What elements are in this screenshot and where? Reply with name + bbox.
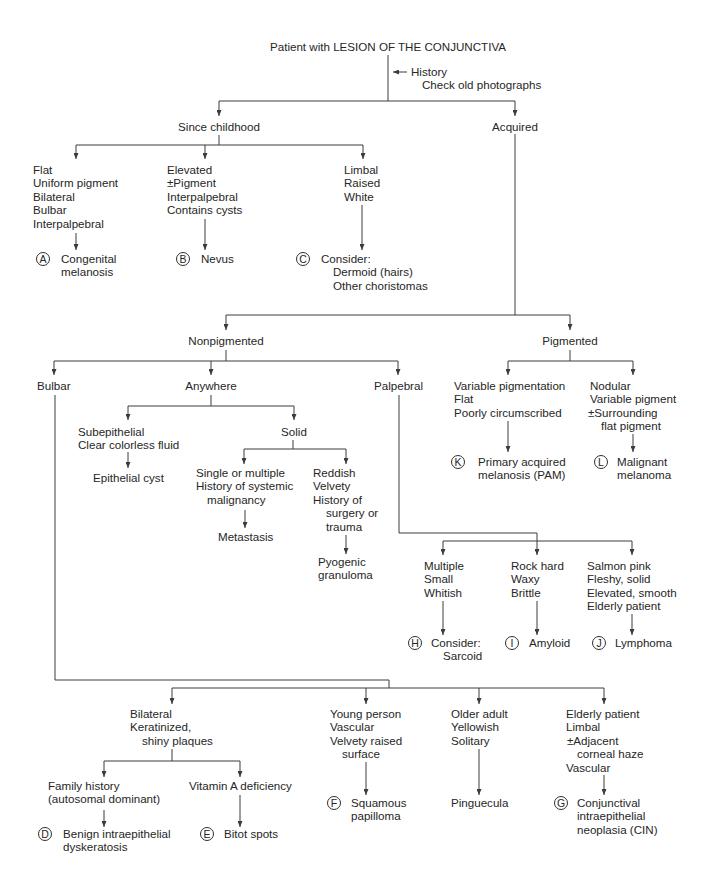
diagnosis-line: dyskeratosis bbox=[63, 840, 171, 853]
criteria-line: shiny plaques bbox=[130, 734, 213, 747]
branch-solid: Solid bbox=[281, 425, 307, 438]
criteria-line: Waxy bbox=[511, 572, 564, 585]
criteria-line: Rock hard bbox=[511, 559, 564, 572]
diagnosis-line: Pyogenic bbox=[318, 555, 373, 568]
diagnosis-marker: I bbox=[505, 636, 519, 650]
criteria-line: Yellowish bbox=[451, 720, 508, 733]
criteria-block: Young person Vascular Velvety raised sur… bbox=[330, 707, 402, 761]
diagnosis-line: Sarcoid bbox=[431, 649, 482, 662]
criteria-line: Contains cysts bbox=[167, 203, 242, 216]
criteria-line: Elevated bbox=[167, 163, 242, 176]
criteria-block: Multiple Small Whitish bbox=[424, 559, 464, 599]
criteria-block: Rock hard Waxy Brittle bbox=[511, 559, 564, 599]
diagnosis-block: Squamous papilloma bbox=[351, 796, 406, 823]
criteria-block: Elderly patient Limbal ±Adjacent corneal… bbox=[566, 707, 643, 774]
criteria-line: Small bbox=[424, 572, 464, 585]
criteria-line: trauma bbox=[313, 520, 378, 533]
criteria-line: Interpalpebral bbox=[167, 190, 242, 203]
diagnosis-block: Congenital melanosis bbox=[61, 252, 116, 279]
diagnosis-marker: D bbox=[38, 827, 52, 841]
criteria-block: Family history (autosomal dominant) bbox=[48, 779, 160, 806]
diagnosis-marker: J bbox=[592, 636, 606, 650]
criteria-line: Young person bbox=[330, 707, 402, 720]
criteria-block: Elevated ±Pigment Interpalpebral Contain… bbox=[167, 163, 242, 217]
diagnosis-marker: H bbox=[408, 636, 422, 650]
criteria-line: Keratinized, bbox=[130, 720, 213, 733]
criteria-block: Subepithelial Clear colorless fluid bbox=[78, 425, 179, 452]
criteria-line: Variable pigment bbox=[590, 392, 676, 405]
criteria-line: Limbal bbox=[344, 163, 380, 176]
criteria-line: Solitary bbox=[451, 734, 508, 747]
criteria-line: Elderly patient bbox=[587, 599, 677, 612]
diagnosis-line: Conjunctival bbox=[577, 796, 658, 809]
branch-acquired: Acquired bbox=[492, 120, 538, 133]
criteria-line: Interpalpebral bbox=[33, 217, 118, 230]
criteria-block: Bilateral Keratinized, shiny plaques bbox=[130, 707, 213, 747]
branch-bulbar: Bulbar bbox=[37, 379, 71, 392]
diagnosis-line: Bitot spots bbox=[224, 827, 278, 840]
branch-pigmented: Pigmented bbox=[542, 334, 597, 347]
criteria-line: History of systemic bbox=[196, 479, 293, 492]
criteria-line: malignancy bbox=[196, 493, 293, 506]
diagnosis-marker: C bbox=[296, 252, 310, 266]
diagnosis-block: Bitot spots bbox=[224, 827, 278, 840]
diagnosis-block: Primary acquired melanosis (PAM) bbox=[478, 455, 566, 482]
diagnosis-line: Dermoid (hairs) bbox=[321, 265, 428, 278]
criteria-line: Nodular bbox=[590, 379, 676, 392]
criteria-block: Variable pigmentation Flat Poorly circum… bbox=[454, 379, 565, 419]
criteria-line: flat pigment bbox=[590, 419, 676, 432]
criteria-line: Bulbar bbox=[33, 203, 118, 216]
criteria-line: History of bbox=[313, 493, 378, 506]
criteria-line: Whitish bbox=[424, 586, 464, 599]
criteria-line: Brittle bbox=[511, 586, 564, 599]
diagnosis-marker: F bbox=[327, 796, 341, 810]
criteria-line: Variable pigmentation bbox=[454, 379, 565, 392]
criteria-block: Single or multiple History of systemic m… bbox=[196, 466, 293, 506]
diagnosis-block: Lymphoma bbox=[615, 636, 672, 649]
diagnosis-block: Nevus bbox=[201, 252, 234, 265]
diagnosis-marker: L bbox=[594, 455, 608, 469]
criteria-line: White bbox=[344, 190, 380, 203]
criteria-line: Elevated, smooth bbox=[587, 586, 677, 599]
criteria-line: Older adult bbox=[451, 707, 508, 720]
diagnosis-block: Metastasis bbox=[218, 530, 273, 543]
criteria-line: Multiple bbox=[424, 559, 464, 572]
criteria-line: Clear colorless fluid bbox=[78, 438, 179, 451]
criteria-block: Flat Uniform pigment Bilateral Bulbar In… bbox=[33, 163, 118, 230]
diagnosis-block: Conjunctival intraepithelial neoplasia (… bbox=[577, 796, 658, 836]
diagnosis-line: intraepithelial bbox=[577, 809, 658, 822]
diagnosis-line: Nevus bbox=[201, 252, 234, 265]
diagnosis-block: Epithelial cyst bbox=[93, 471, 164, 484]
diagnosis-line: Other choristomas bbox=[321, 279, 428, 292]
criteria-line: Vitamin A deficiency bbox=[189, 779, 292, 792]
criteria-line: Single or multiple bbox=[196, 466, 293, 479]
criteria-line: corneal haze bbox=[566, 747, 643, 760]
criteria-line: Subepithelial bbox=[78, 425, 179, 438]
diagnosis-marker: G bbox=[554, 796, 568, 810]
diagnosis-line: papilloma bbox=[351, 809, 406, 822]
criteria-block: Salmon pink Fleshy, solid Elevated, smoo… bbox=[587, 559, 677, 613]
diagnosis-line: Benign intraepithelial bbox=[63, 827, 171, 840]
criteria-line: Uniform pigment bbox=[33, 176, 118, 189]
diagnosis-block: Consider: Dermoid (hairs) Other choristo… bbox=[321, 252, 428, 292]
diagnosis-line: Amyloid bbox=[529, 636, 570, 649]
diagnosis-line: melanosis (PAM) bbox=[478, 468, 566, 481]
diagnosis-block: Malignant melanoma bbox=[617, 455, 671, 482]
diagnosis-block: Pyogenic granuloma bbox=[318, 555, 373, 582]
diagnosis-line: Epithelial cyst bbox=[93, 471, 164, 484]
diagnosis-line: Lymphoma bbox=[615, 636, 672, 649]
criteria-line: Bilateral bbox=[33, 190, 118, 203]
diagnosis-line: Metastasis bbox=[218, 530, 273, 543]
diagnosis-marker: E bbox=[200, 827, 214, 841]
criteria-line: Reddish bbox=[313, 466, 378, 479]
criteria-line: Fleshy, solid bbox=[587, 572, 677, 585]
criteria-block: Nodular Variable pigment ±Surrounding fl… bbox=[590, 379, 676, 433]
diagnosis-line: neoplasia (CIN) bbox=[577, 823, 658, 836]
criteria-line: ±Adjacent bbox=[566, 734, 643, 747]
criteria-line: Velvety raised bbox=[330, 734, 402, 747]
diagnosis-block: Pinguecula bbox=[451, 796, 508, 809]
diagnosis-line: Consider: bbox=[431, 636, 482, 649]
criteria-line: Raised bbox=[344, 176, 380, 189]
diagnosis-block: Amyloid bbox=[529, 636, 570, 649]
diagnosis-marker: K bbox=[451, 455, 465, 469]
